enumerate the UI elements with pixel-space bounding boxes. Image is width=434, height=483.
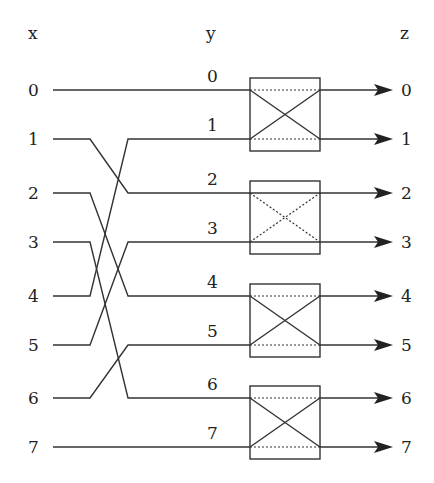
x-label: 3 bbox=[28, 232, 39, 252]
shuffle-wire bbox=[53, 242, 250, 398]
z-label: 0 bbox=[401, 80, 412, 100]
exchange-switch bbox=[250, 78, 320, 151]
shuffle-wire bbox=[53, 345, 250, 398]
shuffle-wire bbox=[53, 242, 250, 345]
y-label: 2 bbox=[207, 169, 218, 189]
y-label: 0 bbox=[207, 66, 218, 86]
z-label: 1 bbox=[401, 129, 412, 149]
x-column-header: x bbox=[28, 23, 38, 43]
z-label: 2 bbox=[401, 183, 412, 203]
z-labels: 01234567 bbox=[401, 80, 412, 457]
x-label: 5 bbox=[28, 335, 39, 355]
x-label: 7 bbox=[28, 437, 39, 457]
shuffle-wire bbox=[53, 139, 250, 296]
y-label: 4 bbox=[207, 272, 218, 292]
y-label: 1 bbox=[207, 115, 218, 135]
exchange-switch bbox=[250, 386, 320, 459]
shuffle-wire bbox=[53, 139, 250, 193]
y-column-header: y bbox=[205, 23, 216, 43]
x-labels: 01234567 bbox=[28, 80, 39, 457]
x-label: 0 bbox=[28, 80, 39, 100]
z-label: 7 bbox=[401, 437, 412, 457]
exchange-switches bbox=[250, 78, 320, 459]
y-label: 3 bbox=[207, 218, 218, 238]
x-label: 4 bbox=[28, 286, 39, 306]
switch-box bbox=[250, 181, 320, 254]
shuffle-exchange-network-diagram: x y z 01234567 01234567 01234567 bbox=[0, 0, 434, 483]
x-label: 6 bbox=[28, 388, 39, 408]
y-label: 7 bbox=[207, 423, 218, 443]
y-label: 5 bbox=[207, 321, 218, 341]
z-label: 6 bbox=[401, 388, 412, 408]
z-label: 5 bbox=[401, 335, 412, 355]
y-label: 6 bbox=[207, 374, 218, 394]
y-labels: 01234567 bbox=[207, 66, 218, 443]
exchange-switch bbox=[250, 181, 320, 254]
z-label: 4 bbox=[401, 286, 412, 306]
z-label: 3 bbox=[401, 232, 412, 252]
shuffle-wires bbox=[53, 90, 250, 447]
exchange-switch bbox=[250, 284, 320, 357]
z-column-header: z bbox=[400, 23, 409, 43]
output-arrows bbox=[320, 84, 393, 453]
shuffle-wire bbox=[53, 193, 250, 296]
x-label: 1 bbox=[28, 129, 39, 149]
x-label: 2 bbox=[28, 183, 39, 203]
